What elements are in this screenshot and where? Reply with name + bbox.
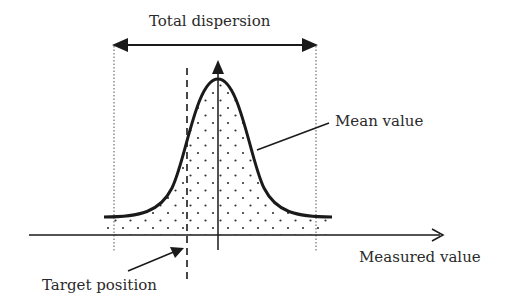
target-position-label: Target position bbox=[42, 278, 157, 293]
total-dispersion-arrow bbox=[112, 38, 318, 52]
measured-value-label: Measured value bbox=[359, 250, 481, 265]
mean-value-label: Mean value bbox=[335, 114, 423, 129]
target-position-pointer bbox=[128, 247, 184, 271]
total-dispersion-label: Total dispersion bbox=[149, 14, 270, 29]
mean-value-pointer bbox=[257, 123, 329, 150]
